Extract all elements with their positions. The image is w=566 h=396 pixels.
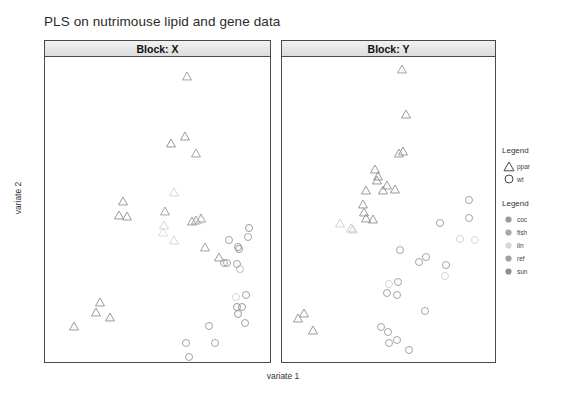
legend-item: sun [502,265,529,277]
circle-marker [231,292,240,301]
triangle-marker [180,131,191,141]
legend-item-label: sun [517,268,527,275]
legend-item: lin [502,239,529,251]
circle-marker [464,195,473,204]
legend-item-label: fish [517,229,527,236]
circle-marker [235,244,244,253]
plot-area-y: -10-50510-50510 [281,57,496,363]
x-tick [241,362,242,363]
circle-marker [182,339,191,348]
y-tick [281,175,282,176]
x-tick [354,362,355,363]
disc-marker-icon [502,255,515,262]
legend-diet-title: Legend [502,199,529,208]
x-axis-title: variate 1 [0,371,566,381]
panel-block-x: Block: X -6-4-202-2024 [44,40,271,363]
circle-marker [241,291,250,300]
circle-marker [205,322,214,331]
disc-marker-icon [502,229,515,236]
triangle-marker [165,138,176,148]
y-axis-title: variate 2 [13,182,23,215]
triangle-marker [400,109,411,119]
circle-marker [471,236,480,245]
triangle-marker [368,214,379,224]
y-tick [44,191,45,192]
panel-strip-y: Block: Y [281,40,496,57]
legend-genotype: Legend pparwt [502,146,530,186]
legend-item-label: ppar [517,163,530,170]
triangle-marker [169,187,180,197]
circle-marker [196,215,205,224]
circle-marker [236,265,245,274]
page-title: PLS on nutrimouse lipid and gene data [44,14,280,29]
circle-marker [421,252,430,261]
circle-marker [465,213,474,222]
triangle-marker [90,307,101,317]
disc-marker-icon [502,216,515,223]
x-tick [482,362,483,363]
panel-block-y: Block: Y -10-50510-50510 [281,40,496,363]
circle-marker [441,260,450,269]
circle-marker [185,352,194,361]
triangle-marker [293,313,304,323]
triangle-marker [158,227,169,237]
legend-item-label: lin [517,242,524,249]
triangle-marker [118,196,129,206]
circle-marker [382,288,391,297]
triangle-marker [334,218,345,228]
circle-marker [225,236,234,245]
circle-marker [238,303,247,312]
circle-marker [421,306,430,315]
legend-item: ppar [502,160,530,172]
panel-strip-x: Block: X [44,40,271,57]
legend-item: coc [502,213,529,225]
legend-genotype-title: Legend [502,146,530,155]
x-tick [312,362,313,363]
y-tick [44,328,45,329]
y-tick [281,313,282,314]
legend-item-label: wt [517,176,524,183]
legend-diet: Legend cocfishlinrefsun [502,199,529,278]
y-tick [281,244,282,245]
triangle-marker [307,325,318,335]
circle-marker [456,234,465,243]
y-tick [44,259,45,260]
triangle-marker [347,224,358,234]
disc-marker-icon [502,268,515,275]
circle-marker [222,258,231,267]
circle-marker [440,272,449,281]
circle-marker [502,174,515,184]
triangle-marker [361,185,372,195]
x-tick [397,362,398,363]
circle-marker [404,345,413,354]
legend-item: ref [502,252,529,264]
circle-marker [210,339,219,348]
circle-marker [395,245,404,254]
triangle-marker [121,211,132,221]
circle-marker [243,232,252,241]
triangle-marker [191,148,202,158]
legend-item-label: ref [517,255,525,262]
legend-item: wt [502,173,530,185]
circle-marker [436,219,445,228]
x-tick [440,362,441,363]
y-tick [44,122,45,123]
triangle-marker [95,297,106,307]
triangle-marker [397,65,408,75]
x-tick [197,362,198,363]
triangle-marker [390,184,401,194]
legend-item-label: coc [517,216,527,223]
x-tick [109,362,110,363]
triangle-marker [160,206,171,216]
disc-marker-icon [502,242,515,249]
triangle-marker [199,242,210,252]
circle-marker [240,318,249,327]
triangle-marker [169,235,180,245]
x-tick [153,362,154,363]
triangle-marker [182,71,193,81]
triangle-marker [105,312,116,322]
circle-marker [392,335,401,344]
circle-marker [393,291,402,300]
triangle-marker [397,146,408,156]
plot-canvas: PLS on nutrimouse lipid and gene data Bl… [0,0,566,396]
